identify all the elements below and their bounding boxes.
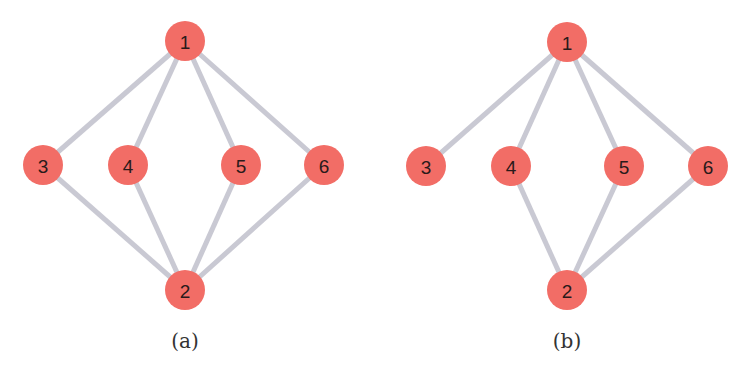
node-label: 2 [180,281,191,302]
node-b-6: 6 [688,146,728,186]
node-a-6: 6 [304,145,344,185]
graph-a: 123456 (a) [23,21,344,353]
edge-2-3 [43,165,185,290]
node-label: 1 [180,32,191,53]
edge-2-6 [567,166,708,290]
edge-1-3 [426,42,567,166]
edge-1-4 [511,42,567,166]
edge-1-4 [128,41,185,165]
edge-2-5 [185,165,241,290]
edge-2-5 [567,166,624,290]
node-b-2: 2 [547,270,587,310]
graph-a-caption: (a) [171,329,199,353]
node-b-1: 1 [547,22,587,62]
node-label: 5 [619,157,630,178]
node-b-5: 5 [604,146,644,186]
node-label: 3 [421,157,432,178]
node-label: 4 [123,156,134,177]
node-label: 6 [703,157,714,178]
edge-2-4 [511,166,567,290]
node-b-3: 3 [406,146,446,186]
node-label: 5 [236,156,247,177]
node-a-1: 1 [165,21,205,61]
edge-2-6 [185,165,324,290]
graph-a-nodes: 123456 [23,21,344,310]
node-label: 6 [319,156,330,177]
node-a-3: 3 [23,145,63,185]
graph-b-nodes: 123456 [406,22,728,310]
edge-1-5 [185,41,241,165]
node-a-5: 5 [221,145,261,185]
node-b-4: 4 [491,146,531,186]
node-label: 4 [506,157,517,178]
node-a-2: 2 [165,270,205,310]
graph-diagram-canvas: 123456 (a) 123456 (b) [0,0,745,369]
edge-1-6 [567,42,708,166]
graph-b-edges [426,42,708,290]
node-label: 2 [562,281,573,302]
edge-2-4 [128,165,185,290]
graph-a-edges [43,41,324,290]
edge-1-3 [43,41,185,165]
edge-1-6 [185,41,324,165]
edge-1-5 [567,42,624,166]
graph-b-caption: (b) [553,329,581,353]
node-label: 3 [38,156,49,177]
node-label: 1 [562,33,573,54]
node-a-4: 4 [108,145,148,185]
graph-b: 123456 (b) [406,22,728,353]
